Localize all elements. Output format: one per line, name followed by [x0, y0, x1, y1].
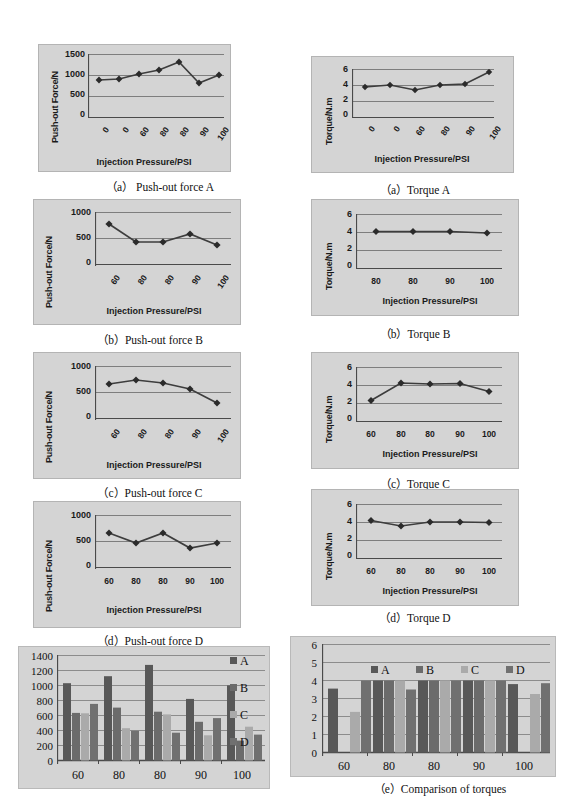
chart-panel-push-out-force-d: Push-out Force/N 1000 500 0 60 80 80 90 … [33, 501, 241, 628]
x-tick: 80 [170, 125, 191, 149]
y-tick: 2 [334, 243, 352, 253]
legend-label-b: B [426, 663, 434, 677]
x-tick: 100 [482, 124, 503, 148]
x-axis-label: Injection Pressure/PSI [350, 296, 510, 306]
y-tick: 4 [334, 226, 352, 236]
legend-item-c: C [461, 662, 479, 678]
y-tick: 0 [334, 550, 352, 560]
y-axis-label: Push-out Force/N [44, 540, 54, 612]
x-tick: 60 [331, 759, 357, 774]
y-axis-label: Torque/N.m [324, 243, 334, 290]
y-tick: 5 [293, 657, 317, 669]
legend-swatch-c [230, 711, 237, 718]
x-axis-label: Injection Pressure/PSI [74, 306, 234, 316]
x-tick: 90 [437, 276, 463, 286]
plot-area [88, 54, 224, 118]
x-tick: 0 [356, 124, 377, 148]
x-tick: 60 [358, 566, 384, 576]
y-tick: 2 [334, 396, 352, 406]
x-tick: 90 [181, 427, 203, 452]
y-tick: 500 [59, 535, 91, 545]
legend-swatch-c [461, 666, 468, 673]
x-axis-label: Injection Pressure/PSI [69, 157, 219, 167]
x-tick: 90 [447, 566, 473, 576]
x-tick: 60 [358, 429, 384, 439]
legend-label-a: A [381, 663, 390, 677]
x-tick: 80 [431, 124, 452, 148]
legend-swatch-a [371, 666, 378, 673]
y-tick: 200 [21, 740, 53, 752]
x-tick: 80 [400, 276, 426, 286]
x-tick: 80 [421, 759, 447, 774]
chart-panel-torque-a: Torque/N.m 6 4 2 0 0 0 60 80 90 100 [311, 56, 514, 173]
x-tick: 80 [150, 576, 176, 586]
y-tick: 0 [334, 413, 352, 423]
y-tick: 800 [21, 695, 53, 707]
y-axis-label: Torque/N.m [324, 533, 334, 580]
x-tick: 90 [456, 124, 477, 148]
y-tick: 6 [334, 362, 352, 372]
y-tick: 1000 [59, 361, 91, 371]
legend-swatch-d [230, 738, 237, 745]
x-tick: 90 [181, 273, 203, 298]
y-tick: 4 [293, 675, 317, 687]
chart-caption-torque-d: （d）Torque D [340, 609, 490, 625]
y-tick: 1200 [21, 665, 53, 677]
x-tick: 80 [417, 429, 443, 439]
x-tick: 100 [511, 759, 537, 774]
y-tick: 1000 [59, 510, 91, 520]
x-tick: 80 [150, 125, 171, 149]
legend-label-c: C [471, 663, 479, 677]
y-tick: 0 [59, 411, 91, 421]
legend-label-d: D [240, 735, 249, 749]
x-tick: 90 [466, 759, 492, 774]
y-axis-label: Push-out Force/N [50, 71, 60, 143]
plot-area [95, 212, 231, 266]
legend-label-d: D [516, 663, 525, 677]
chart-caption-push-out-force-a: （a） Push-out force A [60, 178, 260, 194]
x-tick: 0 [110, 125, 131, 149]
chart-panel-torque-d: Torque/N.m 6 4 2 0 60 80 80 90 100 Injec… [311, 489, 519, 606]
legend-item-d: D [230, 734, 249, 750]
x-tick: 60 [65, 768, 91, 783]
x-tick: 80 [127, 427, 149, 452]
x-tick: 90 [188, 768, 214, 783]
y-tick: 0 [55, 109, 85, 119]
x-axis-label: Injection Pressure/PSI [74, 605, 234, 615]
x-tick: 100 [229, 768, 255, 783]
chart-caption-comparison-of-torques: （e）Comparison of torques [350, 780, 530, 796]
plot-area [322, 644, 550, 756]
y-tick: 2 [334, 533, 352, 543]
x-tick: 100 [476, 566, 502, 576]
y-tick: 2 [330, 94, 348, 104]
chart-panel-comparison-of-push-out-forces: 1400 1200 1000 800 600 400 200 0 [18, 646, 270, 789]
y-tick: 0 [334, 260, 352, 270]
x-tick: 80 [388, 566, 414, 576]
y-tick: 4 [334, 516, 352, 526]
x-tick: 80 [127, 273, 149, 298]
x-tick: 80 [417, 566, 443, 576]
y-tick: 400 [21, 725, 53, 737]
chart-panel-torque-b: Torque/N.m 6 4 2 0 80 80 90 100 Injectio… [311, 199, 519, 316]
y-tick: 1400 [21, 650, 53, 662]
x-tick: 60 [130, 125, 151, 149]
chart-caption-torque-a: （a）Torque A [340, 181, 490, 197]
chart-caption-push-out-force-c: （c）Push-out force C [60, 484, 240, 500]
x-tick: 90 [190, 125, 211, 149]
x-tick: 80 [106, 768, 132, 783]
legend-item-c: C [230, 707, 248, 723]
x-tick: 80 [154, 273, 176, 298]
y-tick: 500 [59, 386, 91, 396]
plot-area [356, 367, 502, 422]
figure-page: Push-out Force/N 1500 1000 500 0 0 0 60 [0, 0, 566, 801]
x-tick: 100 [474, 276, 500, 286]
x-tick: 100 [209, 427, 231, 452]
legend-swatch-b [230, 684, 237, 691]
x-tick: 80 [388, 429, 414, 439]
x-axis-label: Injection Pressure/PSI [350, 586, 510, 596]
x-tick: 80 [123, 576, 149, 586]
x-tick: 80 [363, 276, 389, 286]
y-tick: 1500 [55, 49, 85, 59]
y-tick: 500 [55, 89, 85, 99]
y-tick: 0 [330, 109, 348, 119]
